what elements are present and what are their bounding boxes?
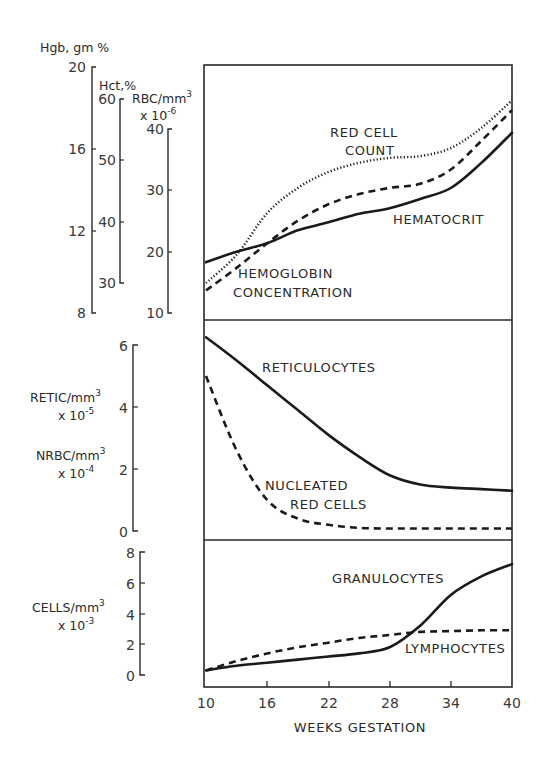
svg-text:28: 28 bbox=[381, 695, 399, 711]
plot-frame bbox=[204, 65, 512, 687]
svg-text:10: 10 bbox=[146, 305, 164, 321]
svg-text:CELLS/mm3: CELLS/mm3 bbox=[32, 598, 105, 615]
svg-text:34: 34 bbox=[442, 695, 460, 711]
svg-text:40: 40 bbox=[98, 214, 116, 230]
svg-text:22: 22 bbox=[320, 695, 338, 711]
svg-text:10: 10 bbox=[197, 695, 215, 711]
svg-text:RED CELLS: RED CELLS bbox=[290, 497, 367, 512]
svg-text:NRBC/mm3: NRBC/mm3 bbox=[36, 446, 105, 463]
svg-text:RETIC/mm3: RETIC/mm3 bbox=[30, 388, 101, 405]
svg-text:16: 16 bbox=[258, 695, 276, 711]
svg-text:6: 6 bbox=[119, 338, 128, 354]
x-axis-title: WEEKS GESTATION bbox=[294, 720, 426, 735]
svg-text:50: 50 bbox=[98, 152, 116, 168]
svg-text:20: 20 bbox=[68, 59, 86, 75]
svg-text:30: 30 bbox=[98, 275, 116, 291]
hct-axis: Hct,% 60 50 40 30 bbox=[98, 78, 136, 291]
x-axis bbox=[267, 681, 451, 687]
svg-text:60: 60 bbox=[98, 91, 116, 107]
svg-text:20: 20 bbox=[146, 244, 164, 260]
x-tick-labels: 10 16 22 28 34 40 bbox=[197, 695, 521, 711]
svg-text:0: 0 bbox=[126, 668, 135, 684]
svg-text:2: 2 bbox=[126, 637, 135, 653]
svg-text:x 10-4: x 10-4 bbox=[58, 464, 95, 481]
svg-text:30: 30 bbox=[146, 182, 164, 198]
retic-nrbc-axis: RETIC/mm3 x 10-5 NRBC/mm3 x 10-4 6 4 2 0 bbox=[30, 338, 138, 540]
label-red-cell-count: RED CELL bbox=[330, 125, 398, 140]
svg-text:40: 40 bbox=[146, 121, 164, 137]
svg-text:40: 40 bbox=[503, 695, 521, 711]
svg-text:x 10-5: x 10-5 bbox=[58, 406, 94, 423]
svg-text:4: 4 bbox=[126, 607, 135, 623]
hematology-chart: 10 16 22 28 34 40 WEEKS GESTATION Hgb, g… bbox=[0, 0, 550, 760]
svg-text:4: 4 bbox=[119, 400, 128, 416]
label-granulocytes: GRANULOCYTES bbox=[332, 571, 444, 586]
label-reticulocytes: RETICULOCYTES bbox=[262, 360, 376, 375]
rbc-axis: RBC/mm3 x 10-6 40 30 20 10 bbox=[132, 89, 192, 321]
svg-text:16: 16 bbox=[68, 141, 86, 157]
svg-text:x 10-3: x 10-3 bbox=[58, 616, 94, 633]
label-hemoglobin: HEMOGLOBIN bbox=[238, 266, 333, 281]
svg-text:0: 0 bbox=[119, 524, 128, 540]
label-lymphocytes: LYMPHOCYTES bbox=[405, 641, 505, 656]
svg-text:CONCENTRATION: CONCENTRATION bbox=[233, 285, 353, 300]
label-nucleated-red-cells: NUCLEATED bbox=[265, 478, 348, 493]
svg-text:8: 8 bbox=[77, 305, 86, 321]
cells-axis: CELLS/mm3 x 10-3 8 6 4 2 0 bbox=[32, 545, 145, 684]
svg-text:Hgb, gm %: Hgb, gm % bbox=[40, 40, 109, 55]
svg-text:COUNT: COUNT bbox=[345, 143, 395, 158]
label-hematocrit: HEMATOCRIT bbox=[393, 212, 484, 227]
svg-text:6: 6 bbox=[126, 576, 135, 592]
svg-text:RBC/mm3: RBC/mm3 bbox=[132, 89, 192, 106]
svg-text:8: 8 bbox=[126, 545, 135, 561]
svg-text:12: 12 bbox=[68, 223, 86, 239]
svg-text:2: 2 bbox=[119, 462, 128, 478]
